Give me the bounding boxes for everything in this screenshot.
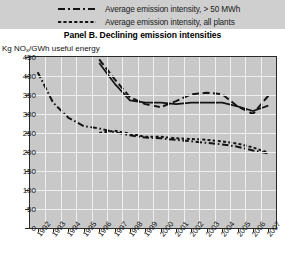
gridline-vertical xyxy=(215,57,216,228)
gridline-vertical xyxy=(45,57,46,228)
y-axis-tick-mark xyxy=(25,133,29,134)
y-axis-tick-label: 150 xyxy=(12,167,36,176)
y-axis-tick-mark xyxy=(25,190,29,191)
gridline-vertical xyxy=(76,57,77,228)
legend-item-0: Average emission intensity, > 50 MWh xyxy=(58,3,240,15)
y-axis-tick-mark xyxy=(25,57,29,58)
y-axis-tick-label: 300 xyxy=(12,110,36,119)
y-axis-tick-label: 450 xyxy=(12,53,36,62)
gridline-vertical xyxy=(168,57,169,228)
gridline-vertical xyxy=(261,57,262,228)
y-axis-tick-mark xyxy=(25,152,29,153)
legend-label-0: Average emission intensity, > 50 MWh xyxy=(105,5,240,14)
y-axis-tick-label: 100 xyxy=(12,186,36,195)
gridline-vertical xyxy=(138,57,139,228)
gridline-vertical xyxy=(245,57,246,228)
y-axis-tick-label: 0 xyxy=(12,224,36,233)
y-axis-tick-label: 400 xyxy=(12,72,36,81)
chart-legend: Average emission intensity, > 50 MWh Ave… xyxy=(0,0,285,29)
gridline-vertical xyxy=(61,57,62,228)
y-axis-tick-label: 250 xyxy=(12,129,36,138)
panel-title: Panel B. Declining emission intensities xyxy=(0,30,285,40)
y-axis-tick-mark xyxy=(25,228,29,229)
gridline-vertical xyxy=(199,57,200,228)
gridline-vertical xyxy=(153,57,154,228)
legend-item-1: Average emission intensity, all plants xyxy=(58,16,235,28)
y-axis-tick-mark xyxy=(25,114,29,115)
plot-region xyxy=(29,56,277,229)
gridline-vertical xyxy=(122,57,123,228)
chart-area: 050100150200250300350400450 199219931994… xyxy=(0,52,285,276)
y-axis-tick-label: 200 xyxy=(12,148,36,157)
gridline-vertical xyxy=(107,57,108,228)
gridline-vertical xyxy=(92,57,93,228)
gridline-vertical xyxy=(184,57,185,228)
legend-key-dash-dot-icon xyxy=(58,4,98,14)
y-axis-tick-mark xyxy=(25,209,29,210)
chart-page: Average emission intensity, > 50 MWh Ave… xyxy=(0,0,285,276)
y-axis-tick-mark xyxy=(25,171,29,172)
legend-key-dotted-icon xyxy=(58,17,98,27)
y-axis-tick-mark xyxy=(25,95,29,96)
gridline-vertical xyxy=(230,57,231,228)
y-axis-tick-mark xyxy=(25,76,29,77)
y-axis-tick-label: 50 xyxy=(12,205,36,214)
y-axis-tick-label: 350 xyxy=(12,91,36,100)
legend-label-1: Average emission intensity, all plants xyxy=(105,18,235,27)
